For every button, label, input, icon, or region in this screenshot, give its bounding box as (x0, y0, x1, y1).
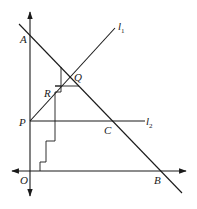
label-o: O (20, 174, 28, 186)
label-p: P (18, 116, 26, 128)
line-l1 (30, 28, 115, 121)
label-l2: l2 (146, 115, 153, 130)
label-c: C (104, 124, 112, 136)
geometry-diagram: A Q R P C O B l1 l2 (0, 0, 197, 209)
staircase-path (40, 92, 55, 171)
label-r: R (43, 87, 51, 99)
label-l1: l1 (118, 20, 125, 35)
line-ab (19, 24, 182, 193)
label-b: B (154, 174, 161, 186)
label-a: A (19, 33, 27, 45)
label-q: Q (74, 71, 82, 83)
